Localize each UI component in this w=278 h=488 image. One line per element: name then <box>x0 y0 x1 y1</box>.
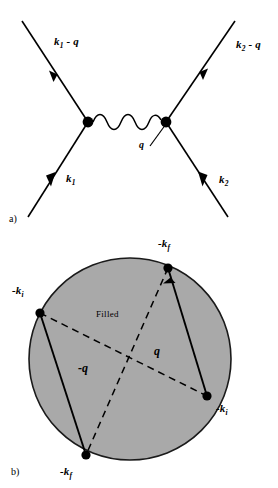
label-photon-q: q <box>139 140 144 150</box>
panel-b-fermi-sphere <box>29 258 231 460</box>
label-minus-ki-right: -ki <box>216 403 228 416</box>
photon-wavy-line <box>93 115 161 130</box>
label-k1: k1 <box>66 173 75 186</box>
arrowhead-incoming-left <box>46 172 56 187</box>
fermi-point-bottom <box>81 450 90 459</box>
leg-incoming-left <box>28 122 88 217</box>
label-minus-kf-bottom: -kf <box>60 466 72 479</box>
fermi-point-left <box>35 308 44 317</box>
fermi-point-top <box>163 263 172 272</box>
panel-label-a: a) <box>9 214 17 224</box>
label-q-transfer: q <box>154 345 160 357</box>
leg-incoming-right <box>166 122 228 217</box>
label-k1-minus-q: k1 - q <box>54 36 79 49</box>
panel-label-b: b) <box>11 467 19 477</box>
leg-outgoing-right <box>166 21 235 122</box>
figure-canvas <box>0 0 278 488</box>
photon-q-tick <box>150 124 166 146</box>
vertex-left <box>83 117 94 128</box>
vertex-right <box>161 117 172 128</box>
label-k2: k2 <box>219 174 228 187</box>
label-k2-minus-q: k2 - q <box>236 39 261 52</box>
fermi-point-right <box>202 391 211 400</box>
label-filled-region: Filled <box>96 310 119 319</box>
label-minus-ki-left: -ki <box>12 285 24 298</box>
label-minus-q-transfer: -q <box>78 362 88 374</box>
panel-a-feynman <box>22 21 235 217</box>
label-minus-kf-top: -kf <box>158 238 170 251</box>
fermi-sphere-circle <box>29 258 231 460</box>
figure-root: k1 - q k2 - q k1 k2 q a) -kf -ki -ki -kf… <box>0 0 278 488</box>
